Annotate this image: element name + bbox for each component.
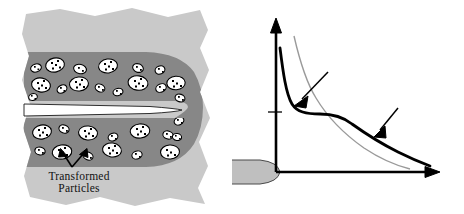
- transformed-particles-caption: Transformed Particles: [24, 170, 134, 194]
- plot-axes: [268, 18, 440, 178]
- plot-svg: [232, 0, 464, 214]
- caption-line-1: Transformed: [24, 170, 134, 182]
- crack-notch-shape: [232, 160, 280, 184]
- y-axis-arrowhead: [271, 18, 282, 33]
- figure-root: Transformed Particles: [0, 0, 464, 214]
- caption-line-2: Particles: [24, 182, 134, 194]
- transformation-toughening-panel: Transformed Particles: [0, 0, 232, 214]
- stress-distance-panel: Stress Distance σc KI(local) KI(remote): [232, 0, 464, 214]
- k-remote-leader: [374, 108, 398, 138]
- k-local-leader: [294, 72, 328, 108]
- x-axis-arrowhead: [425, 167, 440, 178]
